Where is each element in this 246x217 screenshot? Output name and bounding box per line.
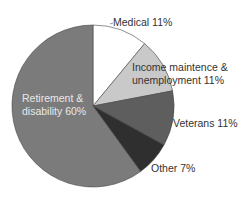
label-medical: Medical 11% — [113, 16, 172, 28]
label-retirement-line2: disability 60% — [22, 105, 86, 117]
label-retirement-line1: Retirement & — [22, 92, 83, 104]
label-income-line2: unemployment 11% — [132, 74, 224, 86]
label-other: Other 7% — [151, 162, 195, 174]
label-veterans: Veterans 11% — [173, 117, 238, 129]
label-income-line1: Income maintence & — [132, 61, 228, 73]
